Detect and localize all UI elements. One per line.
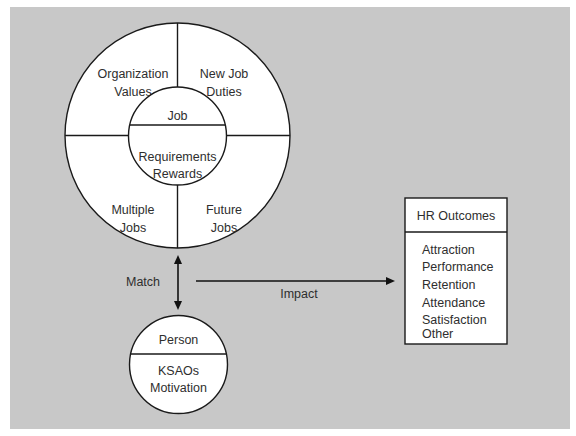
quadrant-organization-values-line2: Values: [114, 85, 151, 99]
hr-outcome-satisfaction: Satisfaction: [422, 313, 487, 327]
job-label: Job: [167, 109, 187, 123]
hr-outcomes-box: HR Outcomes Attraction Performance Reten…: [405, 198, 507, 344]
quadrant-future-jobs-line1: Future: [206, 203, 242, 217]
hr-outcome-retention: Retention: [422, 278, 476, 292]
impact-label: Impact: [280, 287, 318, 301]
job-rewards: Rewards: [153, 167, 202, 181]
hr-outcome-other: Other: [422, 327, 453, 341]
quadrant-new-job-duties-line1: New Job: [200, 67, 249, 81]
person-motivation: Motivation: [150, 381, 207, 395]
quadrant-organization-values-line1: Organization: [98, 67, 169, 81]
hr-outcome-attendance: Attendance: [422, 296, 485, 310]
quadrant-multiple-jobs-line2: Jobs: [120, 221, 146, 235]
person-circle: Person KSAOs Motivation: [130, 316, 228, 414]
person-label: Person: [159, 333, 199, 347]
hr-outcome-attraction: Attraction: [422, 243, 475, 257]
person-ksaos: KSAOs: [158, 364, 199, 378]
quadrant-multiple-jobs-line1: Multiple: [111, 203, 154, 217]
hr-outcomes-title: HR Outcomes: [417, 209, 496, 223]
job-circle: Organization Values New Job Duties Multi…: [65, 23, 290, 248]
quadrant-future-jobs-line2: Jobs: [211, 221, 237, 235]
match-label-visible: Match: [126, 275, 160, 289]
quadrant-new-job-duties-line2: Duties: [206, 85, 241, 99]
job-requirements: Requirements: [139, 150, 217, 164]
hr-outcome-performance: Performance: [422, 260, 494, 274]
person-job-match-diagram: Organization Values New Job Duties Multi…: [0, 0, 576, 436]
